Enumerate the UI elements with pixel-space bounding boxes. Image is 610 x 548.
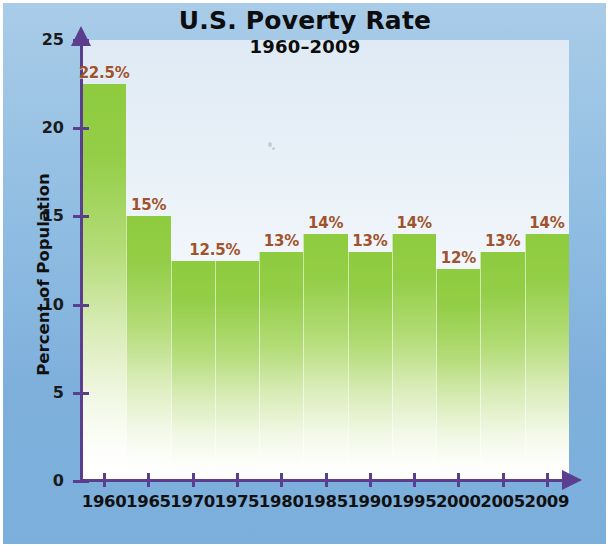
bar-value-label-1960: 22.5%	[79, 64, 130, 82]
y-tick-15	[73, 215, 89, 218]
x-tick-1995	[413, 473, 416, 487]
bar-1995	[392, 234, 436, 481]
x-tick-1985	[325, 473, 328, 487]
chart-subtitle: 1960–2009	[0, 36, 610, 57]
bar-value-label-1970: 12.5%	[189, 241, 240, 259]
bar-value-label-2005: 13%	[485, 232, 520, 250]
bar-value-label-2000: 12%	[441, 249, 476, 267]
scan-border-bottom	[0, 544, 610, 548]
bar-1980	[259, 252, 303, 481]
bar-1975	[215, 261, 259, 482]
bar-value-label-1995: 14%	[397, 214, 432, 232]
scan-border-left	[0, 0, 3, 548]
x-tick-1975	[236, 473, 239, 487]
bar-1985	[303, 234, 347, 481]
y-axis-label: Percent of Population	[34, 155, 53, 395]
y-axis-line	[80, 42, 83, 482]
bar-value-label-1965: 15%	[131, 196, 166, 214]
bar-1990	[348, 252, 392, 481]
bar-value-label-1990: 13%	[352, 232, 387, 250]
scan-border-top	[0, 0, 610, 3]
x-tick-2005	[502, 473, 505, 487]
x-tick-1980	[280, 473, 283, 487]
y-tick-label-0: 0	[24, 471, 64, 490]
bar-1965	[126, 216, 170, 481]
bar-value-label-1980: 13%	[264, 232, 299, 250]
y-tick-5	[73, 392, 89, 395]
y-tick-label-20: 20	[24, 118, 64, 137]
x-tick-1970	[192, 473, 195, 487]
bar-2009	[525, 234, 569, 481]
x-tick-1965	[147, 473, 150, 487]
x-tick-label-2009: 2009	[517, 492, 577, 511]
y-tick-20	[73, 127, 89, 130]
scan-border-right	[606, 0, 610, 548]
bar-value-label-2009: 14%	[529, 214, 564, 232]
bar-value-label-1985: 14%	[308, 214, 343, 232]
x-tick-1960	[103, 473, 106, 487]
y-tick-0	[73, 480, 89, 483]
chart-title: U.S. Poverty Rate	[0, 6, 610, 35]
chart-canvas: 0510152025 19601965197019751980198519901…	[0, 0, 610, 548]
scan-speck	[268, 142, 272, 147]
y-tick-10	[73, 304, 89, 307]
bar-1970	[171, 261, 215, 482]
bar-2005	[480, 252, 524, 481]
bar-series	[82, 40, 569, 481]
x-tick-1990	[369, 473, 372, 487]
bar-2000	[436, 269, 480, 481]
x-tick-2009	[546, 473, 549, 487]
plot-area	[82, 40, 569, 481]
scan-speck	[272, 147, 275, 150]
bar-1960	[82, 84, 126, 481]
x-axis-arrow-icon	[562, 470, 582, 490]
x-axis-line	[80, 479, 565, 482]
x-tick-2000	[457, 473, 460, 487]
